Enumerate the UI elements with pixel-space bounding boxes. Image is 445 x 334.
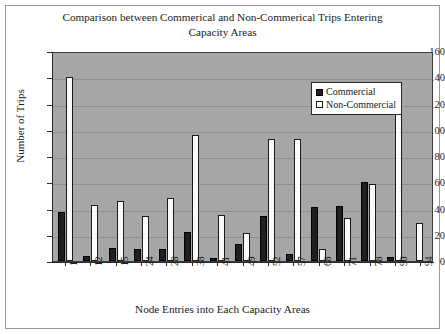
bar-commercial <box>83 256 90 261</box>
bar-commercial <box>336 206 343 261</box>
x-axis-tick-mark <box>90 262 91 266</box>
bar-group <box>104 53 129 261</box>
x-axis-tick-label: 68 <box>323 240 333 266</box>
bar-commercial <box>58 212 65 261</box>
x-axis-tick-mark <box>217 262 218 266</box>
bar-commercial <box>311 207 318 261</box>
x-axis-tick-label: 49 <box>247 240 257 266</box>
x-axis-tick-label: 38 <box>196 240 206 266</box>
x-axis-tick-label: 71 <box>348 240 358 266</box>
bar-non-commercial <box>395 110 402 261</box>
bar-commercial <box>387 257 394 261</box>
x-axis-tick-label: 90 <box>399 240 409 266</box>
legend-swatch-commercial-icon <box>316 89 323 96</box>
chart-title-line-2: Capacity Areas <box>30 25 415 40</box>
x-axis-tick-mark <box>395 262 396 266</box>
legend-swatch-non-commercial-icon <box>316 101 323 108</box>
bar-commercial <box>361 182 368 261</box>
x-axis-tick-label: 41 <box>221 240 231 266</box>
x-axis-tick-mark <box>370 262 371 266</box>
bar-group <box>154 53 179 261</box>
x-axis-tick-mark <box>293 262 294 266</box>
bar-group <box>129 53 154 261</box>
bar-non-commercial <box>416 223 423 261</box>
bar-commercial <box>134 249 141 261</box>
x-axis-tick-label: 52 <box>272 240 282 266</box>
bar-commercial <box>159 249 166 261</box>
legend-item-commercial: Commercial <box>316 86 396 99</box>
legend-label-non-commercial: Non-Commercial <box>326 99 396 112</box>
x-axis-tick-label: 12 <box>94 240 104 266</box>
x-axis-tick-mark <box>344 262 345 266</box>
x-axis-title: Node Entries into Each Capacity Areas <box>30 303 415 315</box>
bar-group <box>179 53 204 261</box>
bar-group <box>255 53 280 261</box>
x-axis-tick-mark <box>166 262 167 266</box>
bar-commercial <box>235 244 242 261</box>
x-axis-tick-mark <box>141 262 142 266</box>
legend-label-commercial: Commercial <box>326 86 375 99</box>
x-axis-tick-mark <box>268 262 269 266</box>
bar-group <box>407 53 432 261</box>
x-axis-tick-mark <box>116 262 117 266</box>
chart-legend: Commercial Non-Commercial <box>311 82 402 115</box>
chart-title: Comparison between Commerical and Non-Co… <box>30 10 415 39</box>
bar-commercial <box>286 254 293 261</box>
x-axis-tick-mark <box>243 262 244 266</box>
bar-group <box>230 53 255 261</box>
bar-non-commercial <box>66 77 73 261</box>
x-axis-tick-label: 1 <box>69 240 79 266</box>
x-axis-tick-label: 57 <box>297 240 307 266</box>
x-axis-tick-label: 24 <box>145 240 155 266</box>
x-axis-tick-mark <box>319 262 320 266</box>
bar-group <box>280 53 305 261</box>
x-axis-tick-label: 15 <box>120 240 130 266</box>
chart-title-line-1: Comparison between Commerical and Non-Co… <box>30 10 415 25</box>
x-axis-tick-mark <box>65 262 66 266</box>
bar-group <box>205 53 230 261</box>
bar-commercial <box>184 232 191 261</box>
bar-commercial <box>260 216 267 261</box>
y-axis-title: Number of Trips <box>14 61 26 191</box>
x-axis-tick-mark <box>420 262 421 266</box>
x-axis-tick-label: 28 <box>170 240 180 266</box>
legend-item-non-commercial: Non-Commercial <box>316 99 396 112</box>
y-axis-line <box>52 52 53 263</box>
x-axis-tick-mark <box>192 262 193 266</box>
bar-commercial <box>109 248 116 261</box>
x-axis-tick-label: 94 <box>424 240 434 266</box>
bar-commercial <box>210 258 217 261</box>
bar-group <box>53 53 78 261</box>
bar-group <box>78 53 103 261</box>
chart-figure: Comparison between Commerical and Non-Co… <box>0 0 445 334</box>
x-axis-tick-label: 78 <box>374 240 384 266</box>
